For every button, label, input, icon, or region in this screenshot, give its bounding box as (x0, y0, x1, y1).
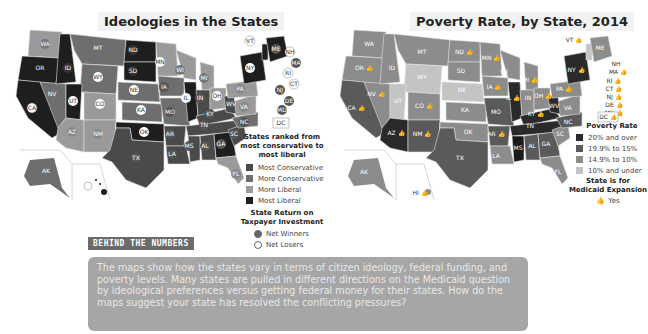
svg-text:AR 👍: AR 👍 (487, 130, 504, 138)
poverty-map-panel: WA OR 👍 CA 👍 NV 👍 ID MT WY UT AZ 👍 CO 👍 … (324, 0, 648, 240)
svg-text:MS: MS (185, 142, 194, 149)
svg-text:KY 👍: KY 👍 (528, 110, 544, 118)
ideology-legend: States ranked from most conservative to … (236, 133, 328, 250)
poverty-legend: Poverty Rate 20% and over 19.9% to 15% 1… (576, 122, 648, 176)
behind-the-numbers-box: The maps show how the states vary in ter… (88, 257, 528, 331)
ideology-map-title: Ideologies in the States (98, 12, 284, 31)
svg-text:VT: VT (246, 37, 254, 44)
svg-text:MO: MO (165, 108, 175, 115)
svg-text:ME: ME (596, 44, 605, 51)
svg-text:SD: SD (129, 67, 138, 74)
svg-text:FL: FL (555, 168, 562, 175)
svg-text:WV: WV (549, 102, 560, 109)
svg-text:OH 👍: OH 👍 (534, 92, 552, 100)
svg-text:MA: MA (291, 59, 301, 66)
svg-text:NH: NH (286, 48, 295, 55)
swatch-icon (246, 197, 253, 204)
svg-text:KA: KA (461, 106, 470, 113)
svg-text:CT: CT (290, 80, 298, 87)
swatch-icon (246, 175, 253, 182)
svg-text:MD: MD (277, 106, 287, 113)
svg-text:DC: DC (277, 119, 286, 126)
svg-text:NV 👍: NV 👍 (367, 90, 385, 98)
svg-text:IL 👍: IL 👍 (506, 94, 520, 102)
svg-text:MI: MI (201, 74, 208, 81)
svg-text:TN: TN (525, 122, 534, 129)
svg-text:CO 👍: CO 👍 (415, 102, 433, 110)
svg-text:NC: NC (240, 118, 249, 125)
legend-item-more-conservative: More Conservative (246, 173, 328, 184)
svg-text:MT: MT (418, 48, 427, 55)
svg-text:UT: UT (394, 97, 402, 104)
svg-text:NE: NE (130, 86, 138, 93)
svg-text:DC 👍: DC 👍 (599, 113, 617, 121)
medicaid-legend-title: State is for Medicaid Expansion (568, 177, 648, 195)
svg-text:SC: SC (556, 130, 564, 137)
svg-text:OR: OR (36, 64, 45, 71)
legend-item-10-and-under: 10% and under (576, 165, 648, 176)
svg-text:NY 👍: NY 👍 (567, 66, 584, 74)
svg-text:CA 👍: CA 👍 (347, 104, 364, 112)
poverty-legend-title: Poverty Rate (576, 122, 648, 131)
svg-text:UT: UT (69, 97, 77, 104)
hollow-circle-icon (254, 241, 262, 249)
medicaid-legend: State is for Medicaid Expansion 👍Yes (568, 177, 648, 206)
svg-text:AL: AL (528, 142, 536, 149)
poverty-map-title: Poverty Rate, by State, 2014 (410, 12, 634, 31)
svg-text:OK: OK (140, 128, 150, 135)
svg-text:IA: IA (161, 83, 168, 90)
svg-text:OR 👍: OR 👍 (355, 64, 373, 72)
svg-text:VT 👍: VT 👍 (566, 36, 583, 44)
svg-text:TX: TX (131, 154, 140, 161)
swatch-icon (246, 164, 253, 171)
svg-text:AK: AK (360, 168, 369, 175)
svg-text:ME: ME (272, 45, 281, 52)
svg-text:SD: SD (457, 67, 466, 74)
svg-text:NM 👍: NM 👍 (413, 130, 432, 138)
filled-circle-icon (254, 230, 262, 238)
svg-text:LA: LA (492, 152, 500, 159)
svg-text:WY: WY (93, 73, 103, 80)
svg-text:ND: ND (128, 46, 137, 53)
svg-text:MN: MN (155, 58, 165, 65)
svg-text:DE: DE (285, 97, 294, 104)
svg-text:WV: WV (226, 100, 237, 107)
svg-text:IL: IL (183, 94, 189, 101)
svg-text:ID: ID (65, 64, 72, 71)
behind-the-numbers-text: The maps show how the states vary in ter… (97, 262, 510, 308)
legend-item-net-winners: Net Winners (254, 228, 328, 239)
svg-text:NV: NV (48, 90, 57, 97)
svg-text:ND 👍: ND 👍 (455, 48, 473, 56)
ideology-legend-title: States ranked from most conservative to … (236, 133, 328, 160)
svg-text:OK: OK (464, 128, 474, 135)
svg-text:CT 👍: CT 👍 (606, 85, 623, 93)
svg-text:IN: IN (525, 94, 531, 101)
legend-item-15-to-19: 19.9% to 15% (576, 143, 648, 154)
svg-text:CO: CO (96, 100, 105, 107)
legend-item-most-conservative: Most Conservative (246, 162, 328, 173)
legend-item-yes: 👍Yes (568, 195, 648, 206)
legend-item-20-and-over: 20% and over (576, 132, 648, 143)
svg-text:NC: NC (564, 118, 573, 125)
legend-item-10-to-14: 14.9% to 10% (576, 154, 648, 165)
svg-text:RI 👍: RI 👍 (607, 77, 622, 85)
return-legend-title: State Return on Taxpayer Investment (236, 209, 328, 227)
svg-text:HI 👍: HI 👍 (412, 189, 427, 197)
svg-text:GA: GA (542, 140, 552, 147)
swatch-icon (576, 145, 583, 152)
svg-text:MN 👍: MN 👍 (482, 54, 501, 62)
svg-text:NJ 👍: NJ 👍 (606, 93, 621, 101)
svg-text:MI 👍: MI 👍 (522, 76, 538, 84)
svg-text:IN: IN (197, 94, 203, 101)
svg-text:AL: AL (201, 142, 209, 149)
svg-text:NE: NE (458, 86, 466, 93)
svg-text:WA: WA (364, 40, 375, 47)
legend-item-most-liberal: Most Liberal (246, 195, 328, 206)
svg-text:KA: KA (137, 106, 146, 113)
svg-text:PA: PA (236, 85, 244, 92)
svg-text:DE 👍: DE 👍 (605, 101, 622, 109)
svg-text:WI: WI (500, 68, 508, 75)
svg-text:AK: AK (42, 167, 51, 174)
svg-text:VA: VA (564, 104, 573, 111)
legend-item-more-liberal: More Liberal (246, 184, 328, 195)
